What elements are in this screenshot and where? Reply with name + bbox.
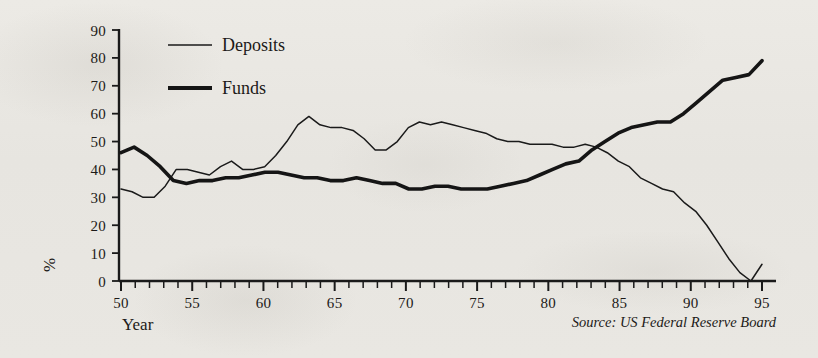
- y-axis-tick-label: 70: [90, 78, 106, 94]
- source-attribution: Source: US Federal Reserve Board: [572, 314, 777, 330]
- legend-label-deposits: Deposits: [222, 35, 285, 55]
- x-axis-tick-label: 80: [541, 295, 557, 311]
- chart-figure: 0102030405060708090 50556065707580859095…: [0, 0, 818, 358]
- chart-svg: 0102030405060708090 50556065707580859095…: [0, 0, 818, 358]
- chart-axes: [119, 29, 776, 281]
- x-axis-tick-label: 70: [398, 295, 414, 311]
- y-axis-tick-label: 80: [90, 50, 106, 66]
- y-axis-ticks: 0102030405060708090: [90, 23, 119, 290]
- y-axis-tick-label: 60: [90, 106, 106, 122]
- x-axis-title: Year: [122, 315, 154, 334]
- y-axis-tick-label: 0: [98, 274, 106, 290]
- x-axis-tick-label: 75: [469, 295, 485, 311]
- x-axis-tick-label: 90: [683, 295, 699, 311]
- series-line-deposits: [121, 116, 762, 281]
- x-axis-tick-label: 85: [612, 295, 628, 311]
- x-axis-ticks: [121, 281, 762, 291]
- x-axis-tick-label: 65: [327, 295, 343, 311]
- y-axis-tick-label: 50: [90, 134, 106, 150]
- y-axis-tick-label: 10: [90, 246, 106, 262]
- y-axis-tick-label: 30: [90, 190, 106, 206]
- x-axis-tick-labels: 50556065707580859095: [113, 295, 770, 311]
- y-axis-tick-label: 40: [90, 162, 106, 178]
- x-axis-tick-label: 55: [184, 295, 200, 311]
- x-axis-tick-label: 50: [113, 295, 129, 311]
- chart-series-group: [121, 61, 762, 281]
- x-axis-tick-label: 95: [754, 295, 770, 311]
- y-axis-tick-label: 90: [90, 23, 106, 39]
- x-axis-tick-label: 60: [256, 295, 272, 311]
- chart-legend: Deposits Funds: [168, 35, 285, 98]
- y-axis-title: %: [40, 258, 59, 272]
- legend-label-funds: Funds: [222, 78, 266, 98]
- y-axis-tick-label: 20: [90, 218, 106, 234]
